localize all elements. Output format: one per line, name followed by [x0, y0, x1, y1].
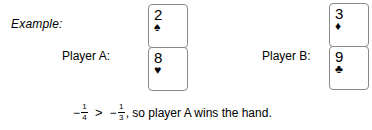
left-fraction: 1 4: [81, 103, 88, 122]
diamond-icon: ♦: [335, 20, 341, 33]
card-player-a-top: 2 ♠: [148, 4, 188, 48]
player-a-label: Player A:: [62, 49, 110, 63]
relation-operator: >: [95, 105, 103, 120]
left-fraction-numerator: 1: [81, 103, 87, 111]
card-player-b-bottom: 9 ♣: [329, 46, 369, 90]
example-label: Example:: [11, 17, 63, 31]
left-minus-sign: −: [73, 106, 80, 120]
player-b-card-stack: 3 ♦ 9 ♣: [329, 3, 369, 90]
right-minus-sign: −: [110, 106, 117, 120]
card-player-a-bottom: 8 ♥: [148, 47, 188, 91]
example-figure: Example: Player A: 2 ♠ 8 ♥ Player B: 3 ♦…: [0, 0, 372, 130]
card-player-b-top: 3 ♦: [329, 3, 369, 47]
conclusion-tail-text: , so player A wins the hand.: [126, 106, 272, 120]
spade-icon: ♠: [154, 21, 160, 34]
player-b-label: Player B:: [262, 49, 311, 63]
player-a-card-stack: 2 ♠ 8 ♥: [148, 4, 188, 91]
club-icon: ♣: [335, 63, 343, 76]
right-fraction-numerator: 1: [118, 103, 124, 111]
left-fraction-denominator: 4: [81, 114, 87, 122]
heart-icon: ♥: [154, 64, 161, 77]
right-fraction-denominator: 3: [118, 114, 124, 122]
conclusion-statement: − 1 4 > − 1 3 , so player A wins the han…: [73, 103, 272, 122]
right-fraction: 1 3: [118, 103, 125, 122]
